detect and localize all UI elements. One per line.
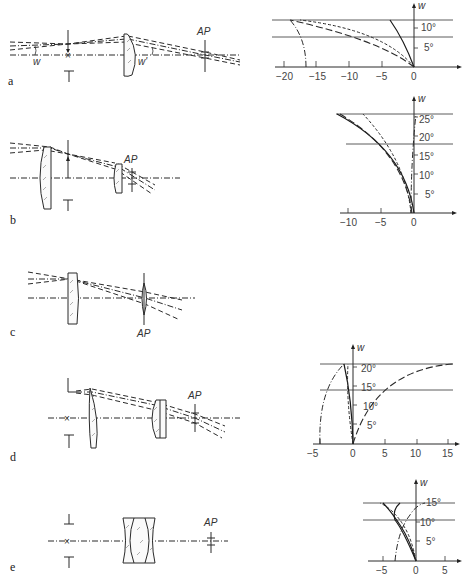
svg-text:×: × <box>65 50 71 61</box>
svg-text:10: 10 <box>410 448 422 459</box>
svg-text:0: 0 <box>350 448 356 459</box>
ap-label: AP <box>196 26 211 37</box>
svg-text:5°: 5° <box>424 42 434 53</box>
ap-label: AP <box>136 328 151 339</box>
svg-text:15°: 15° <box>426 497 441 508</box>
svg-text:−5: −5 <box>375 217 387 228</box>
svg-text:5°: 5° <box>367 420 377 431</box>
svg-text:−10: −10 <box>341 71 358 82</box>
svg-text:×: × <box>64 413 70 424</box>
panel-label-c: c <box>10 325 15 339</box>
svg-text:15°: 15° <box>419 151 434 162</box>
chart-e: w −5 0 5 15° 10° 5° <box>363 477 462 576</box>
svg-text:10°: 10° <box>419 170 434 181</box>
svg-text:0: 0 <box>411 217 417 228</box>
svg-text:−5: −5 <box>307 448 319 459</box>
svg-text:5°: 5° <box>425 189 435 200</box>
panel-a-ray-diagram: × AP w w' a <box>8 26 240 88</box>
svg-text:5: 5 <box>442 565 448 576</box>
svg-text:5°: 5° <box>426 536 436 547</box>
panel-label-d: d <box>10 450 16 464</box>
ap-label: AP <box>123 154 138 165</box>
panel-d-ray-diagram: × AP d <box>10 378 240 464</box>
panel-e-ray-diagram: × AP e <box>10 514 228 574</box>
svg-text:20°: 20° <box>419 132 434 143</box>
svg-text:−10: −10 <box>340 217 357 228</box>
angle-w-prime-label: w' <box>138 56 148 67</box>
svg-text:−15: −15 <box>309 71 326 82</box>
svg-text:w: w <box>357 342 365 353</box>
svg-text:10°: 10° <box>420 517 435 528</box>
ap-label: AP <box>203 517 218 528</box>
svg-text:10°: 10° <box>421 22 436 33</box>
svg-text:w: w <box>420 477 428 488</box>
svg-text:−5: −5 <box>376 565 388 576</box>
svg-text:−5: −5 <box>376 71 388 82</box>
svg-text:w: w <box>418 93 426 104</box>
svg-text:25°: 25° <box>419 114 434 125</box>
panel-label-a: a <box>8 74 14 88</box>
svg-text:15: 15 <box>442 448 454 459</box>
panel-label-e: e <box>10 560 15 574</box>
chart-d: w −5 0 5 10 15 20° 15° 10° 5° <box>307 342 460 459</box>
panel-c-ray-diagram: AP c <box>10 272 195 339</box>
lens-c1 <box>68 273 79 324</box>
lens-e <box>123 518 155 563</box>
svg-text:−20: −20 <box>276 71 293 82</box>
svg-text:×: × <box>64 536 70 547</box>
ap-label: AP <box>187 390 202 401</box>
optical-diagram: × AP w w' a w −20 −15 <box>0 0 467 579</box>
svg-text:0: 0 <box>411 71 417 82</box>
lens-d2 <box>152 400 166 438</box>
svg-text:0: 0 <box>413 565 419 576</box>
lens-b2 <box>114 164 122 193</box>
svg-text:20°: 20° <box>361 363 376 374</box>
angle-w-label: w <box>33 56 41 67</box>
svg-text:5: 5 <box>382 448 388 459</box>
svg-text:15°: 15° <box>361 382 376 393</box>
panel-b-ray-diagram: AP b <box>10 140 180 227</box>
panel-label-b: b <box>10 213 16 227</box>
svg-text:w: w <box>418 0 426 11</box>
chart-a: w −20 −15 −10 −5 0 10° 5° <box>272 0 462 82</box>
chart-b: w −10 −5 0 25° 20° 15° 10° 5° <box>336 93 457 228</box>
